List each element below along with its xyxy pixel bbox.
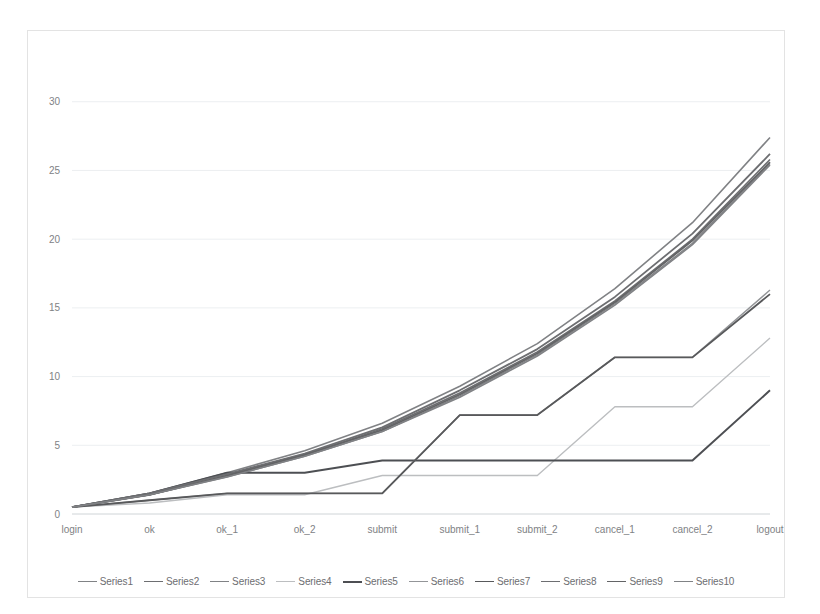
chart-card: 051015202530 loginokok_1ok_2submitsubmit… xyxy=(27,30,785,598)
legend-item-series1[interactable]: Series1 xyxy=(78,576,133,587)
chart-legend: Series1Series2Series3Series4Series5Serie… xyxy=(28,576,784,587)
legend-item-series2[interactable]: Series2 xyxy=(144,576,199,587)
x-axis-ticks-group: loginokok_1ok_2submitsubmit_1submit_2can… xyxy=(61,524,783,535)
legend-color-swatch xyxy=(144,581,163,582)
x-axis-tick-label: login xyxy=(61,524,82,535)
y-axis-tick-label: 5 xyxy=(54,440,60,451)
y-axis-tick-label: 15 xyxy=(49,302,61,313)
x-axis-tick-label: cancel_2 xyxy=(672,524,712,535)
legend-item-label: Series2 xyxy=(166,576,199,587)
legend-item-label: Series10 xyxy=(696,576,735,587)
legend-color-swatch xyxy=(343,581,362,583)
series-line-series1 xyxy=(72,137,770,507)
x-axis-tick-label: ok xyxy=(144,524,156,535)
x-axis-tick-label: submit xyxy=(367,524,397,535)
legend-color-swatch xyxy=(210,581,229,582)
legend-item-label: Series4 xyxy=(298,576,331,587)
legend-item-series9[interactable]: Series9 xyxy=(607,576,662,587)
gridlines-group xyxy=(72,102,770,514)
legend-item-series5[interactable]: Series5 xyxy=(343,576,398,587)
plot-area: 051015202530 loginokok_1ok_2submitsubmit… xyxy=(28,31,784,597)
legend-item-series10[interactable]: Series10 xyxy=(674,576,735,587)
series-line-series4 xyxy=(72,338,770,507)
legend-item-label: Series9 xyxy=(629,576,662,587)
x-axis-tick-label: submit_2 xyxy=(517,524,558,535)
series-line-series5 xyxy=(72,390,770,507)
legend-item-series6[interactable]: Series6 xyxy=(409,576,464,587)
legend-item-series8[interactable]: Series8 xyxy=(541,576,596,587)
legend-item-label: Series5 xyxy=(365,576,398,587)
legend-color-swatch xyxy=(607,581,626,582)
legend-item-series4[interactable]: Series4 xyxy=(276,576,331,587)
y-axis-tick-label: 10 xyxy=(49,371,61,382)
y-axis-tick-label: 0 xyxy=(54,509,60,520)
x-axis-tick-label: logout xyxy=(756,524,783,535)
legend-item-label: Series7 xyxy=(497,576,530,587)
line-chart-svg: 051015202530 loginokok_1ok_2submitsubmit… xyxy=(28,31,784,597)
y-axis-tick-label: 25 xyxy=(49,165,61,176)
legend-item-series3[interactable]: Series3 xyxy=(210,576,265,587)
x-axis-tick-label: ok_2 xyxy=(294,524,316,535)
legend-color-swatch xyxy=(276,581,295,582)
legend-color-swatch xyxy=(78,581,97,582)
legend-color-swatch xyxy=(409,581,428,582)
legend-item-label: Series8 xyxy=(563,576,596,587)
y-axis-tick-label: 20 xyxy=(49,234,61,245)
legend-color-swatch xyxy=(541,581,560,582)
x-axis-tick-label: cancel_1 xyxy=(595,524,635,535)
legend-item-series7[interactable]: Series7 xyxy=(475,576,530,587)
x-axis-tick-label: submit_1 xyxy=(439,524,480,535)
legend-item-label: Series3 xyxy=(232,576,265,587)
series-line-series6 xyxy=(72,290,770,507)
legend-item-label: Series1 xyxy=(100,576,133,587)
y-axis-ticks-group: 051015202530 xyxy=(49,96,61,519)
y-axis-tick-label: 30 xyxy=(49,96,61,107)
series-lines-group xyxy=(72,137,770,507)
legend-item-label: Series6 xyxy=(431,576,464,587)
x-axis-tick-label: ok_1 xyxy=(216,524,238,535)
series-line-series3 xyxy=(72,164,770,508)
legend-color-swatch xyxy=(674,581,693,582)
series-line-series10 xyxy=(72,165,770,507)
legend-color-swatch xyxy=(475,581,494,582)
